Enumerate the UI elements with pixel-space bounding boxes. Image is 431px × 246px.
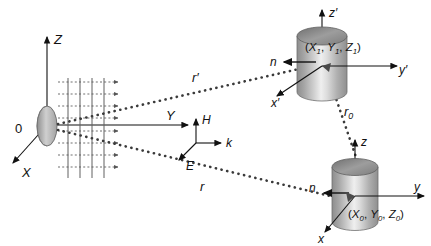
- lower-x-axis-label: x: [317, 232, 325, 246]
- ray-r-zero-label: r0: [344, 104, 353, 121]
- upper-z-axis-label: z′: [328, 6, 338, 20]
- svg-text:z′: z′: [328, 6, 338, 20]
- e-vector-label: E: [186, 159, 195, 173]
- upper-x-axis-label: x′: [270, 96, 280, 110]
- upper-y-axis-label: y′: [398, 63, 408, 77]
- scattering-geometry-figure: Z Y X 0 H k E r′ r r0 z′ y′: [0, 0, 431, 246]
- e-vector-arrow: [179, 143, 196, 160]
- ray-r-prime-label: r′: [192, 70, 199, 85]
- svg-text:x′: x′: [270, 96, 280, 110]
- global-axes-group: [13, 37, 188, 163]
- lower-pos-close: ): [400, 208, 404, 220]
- h-vector-label: H: [202, 113, 211, 127]
- ray-r-zero-sub: 0: [348, 111, 353, 121]
- upper-normal-label: n: [270, 55, 277, 69]
- ray-r-label: r: [200, 179, 205, 194]
- diagram-canvas: Z Y X 0 H k E r′ r r0 z′ y′: [0, 0, 431, 246]
- origin-label: 0: [15, 121, 22, 136]
- wavefront-lines-group: [68, 78, 104, 178]
- global-y-axis-label: Y: [166, 108, 176, 123]
- lower-y-axis-label: y: [413, 180, 421, 194]
- lower-cylinder-body: [332, 167, 378, 230]
- svg-text:r0: r0: [344, 104, 353, 121]
- lower-z-axis-label: z: [360, 135, 367, 149]
- k-vector-label: k: [226, 136, 233, 150]
- upper-z-prime: ′: [335, 6, 338, 20]
- ray-r-prime-mark: ′: [196, 70, 199, 85]
- svg-text:y′: y′: [398, 63, 408, 77]
- svg-text:r′: r′: [192, 70, 199, 85]
- source-aperture: [37, 106, 57, 146]
- upper-y-prime: ′: [405, 63, 408, 77]
- upper-z-letter: z: [328, 6, 335, 20]
- global-z-axis-label: Z: [53, 32, 63, 47]
- ray-r-prime: [58, 66, 312, 124]
- upper-pos-close: ): [357, 41, 361, 53]
- lower-normal-label: n: [309, 181, 316, 195]
- global-x-axis-label: X: [21, 165, 32, 180]
- upper-x-prime: ′: [277, 96, 280, 110]
- lower-cylinder-top: [332, 159, 378, 176]
